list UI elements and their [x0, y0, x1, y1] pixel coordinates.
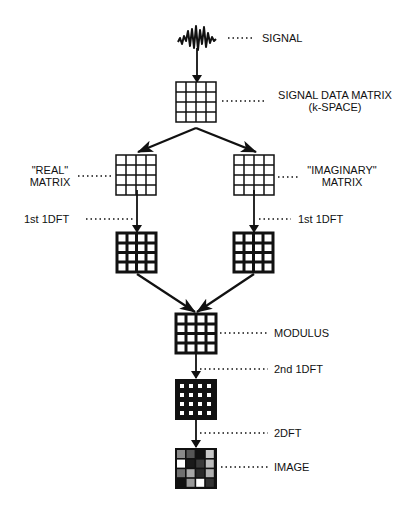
image-pixel	[177, 450, 185, 458]
label-second-dft: 2nd 1DFT	[274, 363, 323, 375]
arrow-kspace-to-imag	[196, 128, 256, 152]
label-modulus: MODULUS	[274, 327, 329, 339]
signal-waveform-icon	[178, 26, 216, 50]
image-pixel	[206, 469, 214, 477]
imaginary-dft-matrix	[234, 233, 273, 272]
label-imag-line2: MATRIX	[300, 176, 384, 188]
label-left-first-dft: 1st 1DFT	[24, 213, 69, 225]
modulus-matrix	[176, 314, 216, 353]
image-pixel	[196, 450, 204, 458]
real-matrix	[116, 155, 156, 195]
label-real-line1: "REAL"	[18, 164, 82, 176]
real-dft-matrix	[117, 233, 156, 272]
image-pixel	[196, 479, 204, 487]
image-pixel	[177, 479, 185, 487]
image-pixel	[196, 469, 204, 477]
arrow-realdft-to-modulus	[137, 274, 195, 312]
label-signal: SIGNAL	[262, 32, 302, 44]
image-pixel	[187, 469, 195, 477]
image-pixel	[177, 469, 185, 477]
arrow-imagdft-to-modulus	[197, 274, 254, 312]
image-pixel	[187, 479, 195, 487]
label-right-first-dft: 1st 1DFT	[298, 213, 343, 225]
imaginary-matrix	[234, 155, 274, 195]
image-matrix	[175, 448, 217, 489]
label-imaginary-matrix: "IMAGINARY" MATRIX	[300, 164, 384, 188]
label-image: IMAGE	[274, 461, 309, 473]
image-pixel	[206, 460, 214, 468]
label-imag-line1: "IMAGINARY"	[300, 164, 384, 176]
image-pixel	[187, 460, 195, 468]
label-kspace: SIGNAL DATA MATRIX (k-SPACE)	[270, 89, 400, 113]
label-real-matrix: "REAL" MATRIX	[18, 164, 82, 188]
arrow-kspace-to-real	[138, 128, 196, 152]
label-real-line2: MATRIX	[18, 176, 82, 188]
second-dft-matrix	[175, 379, 217, 420]
label-2dft: 2DFT	[274, 427, 302, 439]
image-pixel	[196, 460, 204, 468]
image-pixel	[206, 479, 214, 487]
label-kspace-line2: (k-SPACE)	[270, 101, 400, 113]
kspace-matrix	[176, 82, 216, 122]
diagram-canvas	[0, 0, 412, 514]
image-pixel	[177, 460, 185, 468]
image-pixel	[206, 450, 214, 458]
label-kspace-line1: SIGNAL DATA MATRIX	[270, 89, 400, 101]
image-pixel	[187, 450, 195, 458]
